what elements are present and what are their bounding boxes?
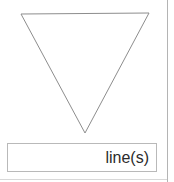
screenshot-root: line(s) (0, 0, 174, 182)
bottom-horizontal-divider (0, 179, 167, 180)
inverted-triangle-icon (0, 0, 167, 140)
shape-drawing-area[interactable] (0, 0, 167, 140)
line-count-label-text: line(s) (105, 149, 149, 167)
right-vertical-divider (167, 0, 168, 182)
triangle-outline (21, 13, 149, 133)
line-count-label-box[interactable]: line(s) (7, 143, 157, 172)
